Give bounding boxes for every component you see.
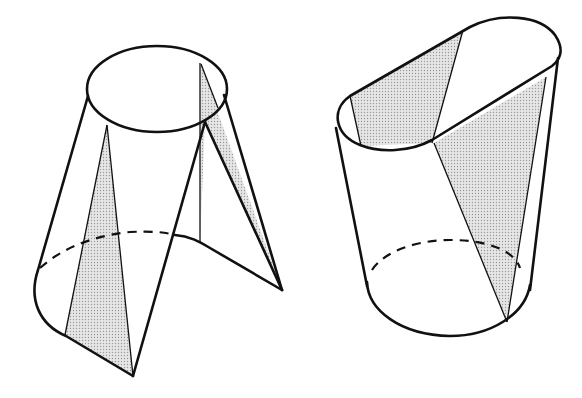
right-surface (336, 18, 561, 336)
diagram-canvas (0, 0, 582, 398)
left-inner-edge (205, 122, 282, 290)
right-silhouette-left (336, 128, 367, 286)
left-surface (34, 46, 282, 376)
left-bottom-right-curve (175, 235, 282, 290)
right-shade-top (350, 30, 463, 146)
left-front-diagonal (133, 122, 205, 376)
